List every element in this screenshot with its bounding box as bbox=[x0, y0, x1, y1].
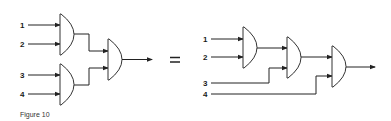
right-circuit: 1 2 3 4 bbox=[203, 27, 375, 99]
and-gate-a-icon bbox=[60, 14, 74, 55]
input-label-3: 3 bbox=[20, 71, 25, 80]
input-label-4: 4 bbox=[203, 90, 208, 99]
wire-input-4 bbox=[211, 76, 332, 94]
input-label-4: 4 bbox=[20, 90, 25, 99]
input-label-3: 3 bbox=[203, 79, 208, 88]
wire-b-to-c bbox=[74, 68, 108, 85]
wire-a-to-c bbox=[74, 34, 108, 51]
figure-caption: Figure 10 bbox=[20, 111, 50, 119]
equals-sign bbox=[170, 58, 180, 63]
logic-diagram: 1 2 3 4 1 2 3 4 bbox=[0, 0, 391, 121]
input-label-1: 1 bbox=[20, 21, 25, 30]
and-gate-1-icon bbox=[243, 27, 257, 68]
and-gate-3-icon bbox=[332, 46, 346, 87]
wire-input-3 bbox=[211, 68, 287, 83]
and-gate-2-icon bbox=[287, 37, 301, 78]
input-label-1: 1 bbox=[203, 35, 208, 44]
and-gate-b-icon bbox=[60, 64, 74, 105]
input-label-2: 2 bbox=[203, 53, 208, 62]
and-gate-c-icon bbox=[108, 39, 122, 80]
input-label-2: 2 bbox=[20, 40, 25, 49]
left-circuit: 1 2 3 4 bbox=[20, 14, 152, 105]
